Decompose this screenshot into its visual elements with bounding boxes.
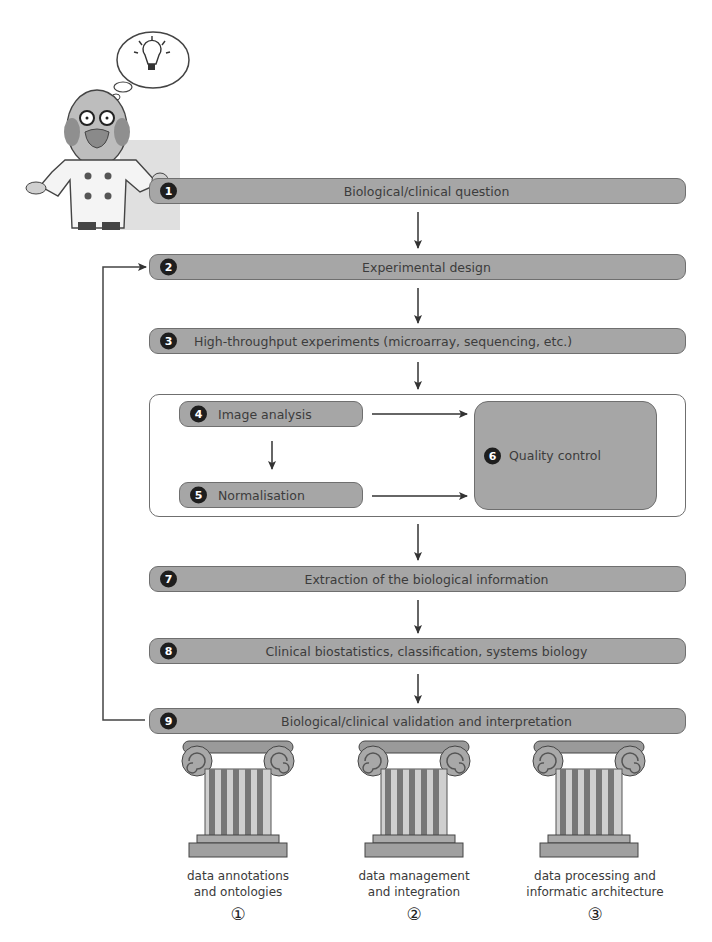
step-label: Biological/clinical question — [150, 184, 685, 199]
step-number-badge: 3 — [160, 333, 177, 350]
pillar-3 — [533, 741, 645, 857]
step-label: High-throughput experiments (microarray,… — [150, 334, 685, 349]
step-2-bar: 2 Experimental design — [149, 254, 686, 280]
step-8-bar: 8 Clinical biostatistics, classification… — [149, 638, 686, 664]
pillar-2-number: ② — [400, 904, 428, 924]
step-number-badge: 8 — [160, 643, 177, 660]
step-label: Biological/clinical validation and inter… — [150, 714, 685, 729]
step-number-badge: 6 — [484, 447, 501, 464]
step-3-bar: 3 High-throughput experiments (microarra… — [149, 328, 686, 354]
step-4-bar: 4 Image analysis — [179, 401, 363, 427]
step-label: Quality control — [475, 448, 656, 463]
step-number-badge: 2 — [160, 259, 177, 276]
pillar-label-line: data annotations — [168, 868, 308, 884]
step-6-box: 6 Quality control — [474, 401, 657, 510]
step-label: Normalisation — [180, 488, 362, 503]
step-label: Clinical biostatistics, classification, … — [150, 644, 685, 659]
step-number-badge: 1 — [160, 183, 177, 200]
pillar-1 — [182, 741, 294, 857]
step-number-badge: 9 — [160, 713, 177, 730]
step-label: Image analysis — [180, 407, 362, 422]
pillar-3-number: ③ — [581, 904, 609, 924]
pillar-label-line: data processing and — [510, 868, 680, 884]
pillar-label-line: and integration — [344, 884, 484, 900]
scientist-illustration — [0, 0, 200, 240]
step-1-bar: 1 Biological/clinical question — [149, 178, 686, 204]
pillar-2-label: data management and integration — [344, 868, 484, 900]
step-number-badge: 5 — [190, 487, 207, 504]
step-7-bar: 7 Extraction of the biological informati… — [149, 566, 686, 592]
pillar-1-label: data annotations and ontologies — [168, 868, 308, 900]
step-label: Experimental design — [150, 260, 685, 275]
pillar-3-label: data processing and informatic architect… — [510, 868, 680, 900]
pillar-2 — [358, 741, 470, 857]
pillar-1-number: ① — [224, 904, 252, 924]
step-label: Extraction of the biological information — [150, 572, 685, 587]
pillar-label-line: and ontologies — [168, 884, 308, 900]
pillar-label-line: informatic architecture — [510, 884, 680, 900]
step-number-badge: 7 — [160, 571, 177, 588]
step-number-badge: 4 — [190, 406, 207, 423]
step-5-bar: 5 Normalisation — [179, 482, 363, 508]
pillar-label-line: data management — [344, 868, 484, 884]
step-9-bar: 9 Biological/clinical validation and int… — [149, 708, 686, 734]
